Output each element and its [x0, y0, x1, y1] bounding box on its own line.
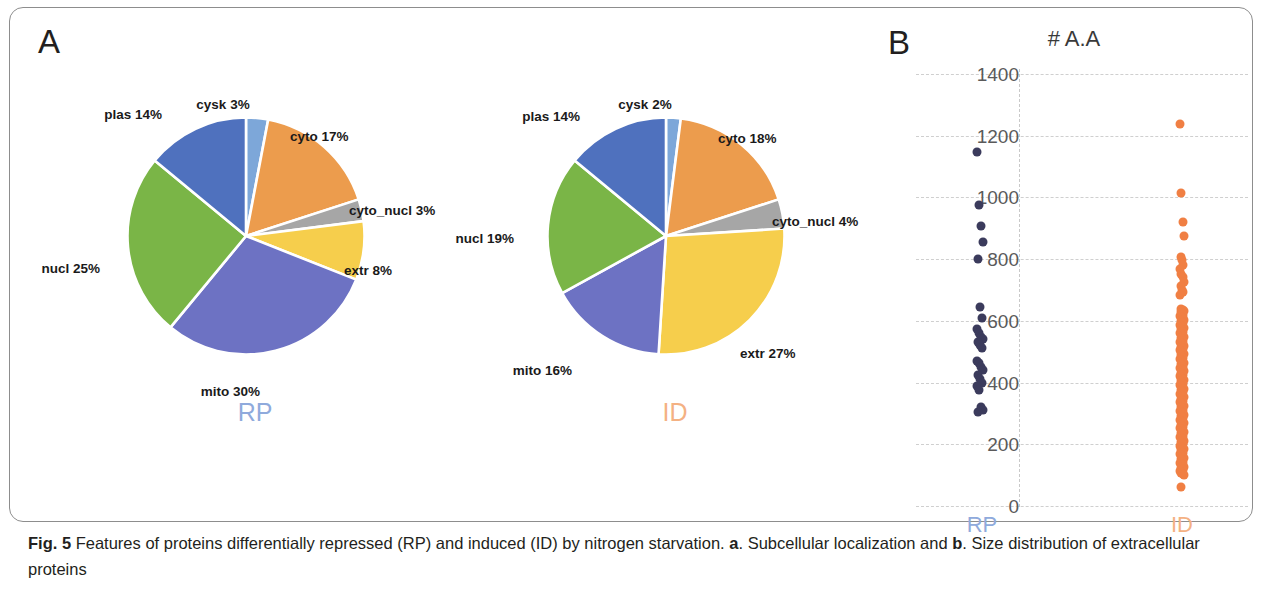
pie-id-label-cyto: cyto 18% — [718, 132, 777, 146]
scatter-point-id — [1175, 119, 1184, 128]
scatter-point-rp — [978, 238, 987, 247]
scatter-point-rp — [975, 201, 984, 210]
pie-id-label-extr: extr 27% — [740, 347, 796, 361]
scatter-point-id — [1177, 188, 1186, 197]
scatter-point-id — [1180, 471, 1189, 480]
pie-id-label-cysk: cysk 2% — [600, 98, 690, 112]
scatter-point-rp — [976, 222, 985, 231]
caption-figure-number: Fig. 5 — [28, 534, 71, 552]
figure-caption: Fig. 5 Features of proteins differential… — [28, 531, 1240, 582]
y-axis-line — [1019, 69, 1020, 507]
pie-rp-label-nucl: nucl 25% — [20, 262, 100, 276]
pie-id-svg — [538, 108, 794, 364]
pie-rp-label-plas: plas 14% — [72, 108, 162, 122]
caption-text-1: Features of proteins differentially repr… — [71, 534, 729, 552]
caption-bold-b: b — [952, 534, 962, 552]
pie-id-label-nucl: nucl 19% — [434, 232, 514, 246]
pie-slice-extr — [659, 229, 785, 355]
scatter-point-rp — [974, 407, 983, 416]
caption-text-2: . Subcellular localization and — [738, 534, 952, 552]
pie-rp-label-cysk: cysk 3% — [178, 98, 268, 112]
y-tick-400: 400 — [955, 373, 1019, 392]
pie-rp-svg — [118, 108, 374, 364]
scatter-point-rp — [974, 255, 983, 264]
pie-rp-label-mito: mito 30% — [130, 385, 260, 399]
panel-label-a: A — [38, 25, 61, 58]
scatter-point-id — [1178, 218, 1187, 227]
y-tick-1000: 1000 — [955, 188, 1019, 207]
pie-id-label-plas: plas 14% — [490, 110, 580, 124]
scatter-plot-area: 0200400600800100012001400 — [900, 64, 1248, 506]
scatter-point-rp — [973, 147, 982, 156]
scatter-plot-panel: # A.A 0200400600800100012001400 RP ID — [900, 28, 1248, 518]
pie-rp-label-cyto: cyto 17% — [290, 130, 349, 144]
y-tick-1200: 1200 — [955, 126, 1019, 145]
scatter-point-rp — [977, 344, 986, 353]
scatter-point-rp — [976, 302, 985, 311]
pie-id-label-cyto-nucl: cyto_nucl 4% — [772, 215, 858, 229]
pie-id-title: ID — [615, 400, 735, 425]
pie-chart-id — [538, 108, 794, 364]
scatter-title: # A.A — [900, 28, 1248, 50]
y-tick-600: 600 — [955, 311, 1019, 330]
figure-root: A B RP cysk 3% cyto 17% cyto_nucl 3% ext… — [0, 0, 1262, 609]
y-tick-800: 800 — [955, 250, 1019, 269]
scatter-point-rp — [977, 313, 986, 322]
scatter-point-rp — [975, 386, 984, 395]
y-tick-200: 200 — [955, 435, 1019, 454]
pie-id-label-mito: mito 16% — [462, 364, 572, 378]
pie-rp-label-extr: extr 8% — [344, 264, 392, 278]
pie-chart-rp — [118, 108, 374, 364]
pie-rp-label-cyto-nucl: cyto_nucl 3% — [349, 204, 435, 218]
scatter-point-id — [1176, 482, 1185, 491]
pie-rp-title: RP — [195, 400, 315, 425]
scatter-point-id — [1180, 232, 1189, 241]
y-tick-1400: 1400 — [955, 65, 1019, 84]
scatter-point-id — [1175, 290, 1184, 299]
